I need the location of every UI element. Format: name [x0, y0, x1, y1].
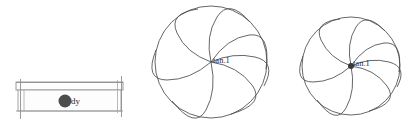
spiral-right-arm-7	[351, 60, 401, 87]
figure-canvas: dy tan.1 tan.1	[0, 0, 416, 132]
spiral-right-arm-2	[351, 66, 390, 111]
spiral-right-arm-5	[319, 19, 351, 66]
spiral-left-arm-3	[172, 62, 213, 118]
spiral-left-arm-4	[152, 50, 211, 80]
spiral-left-arm-2	[211, 62, 256, 114]
spiral-left-arm-5	[175, 9, 211, 62]
spiral-left-arm-7	[211, 55, 269, 86]
spiral-right-arm-3	[317, 66, 353, 115]
figure-svg	[0, 0, 416, 132]
spiral-right-arm-4	[300, 56, 351, 82]
beam-top-flange	[16, 82, 123, 90]
spiral-right-group	[300, 17, 401, 115]
beam-dy-dot	[59, 95, 72, 108]
beam-elevation-group	[16, 76, 123, 119]
spiral-right-arm-6	[349, 20, 385, 66]
spiral-left-group	[152, 6, 269, 118]
spiral-right-center-dot	[348, 63, 354, 69]
